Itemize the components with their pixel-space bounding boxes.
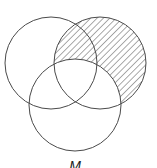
venn-diagram: M <box>0 0 157 168</box>
diagram-label: M <box>69 158 81 168</box>
shaded-region <box>0 0 157 168</box>
